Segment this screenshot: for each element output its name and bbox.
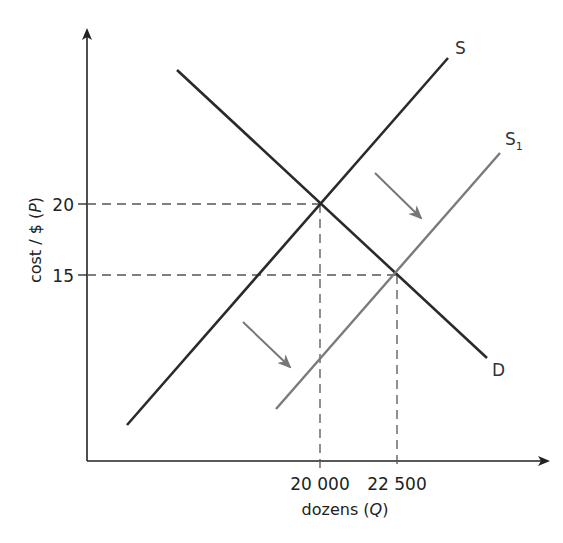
shift-arrows (243, 173, 421, 367)
label-s: S (455, 38, 466, 58)
label-s1-subscript: 1 (516, 140, 523, 153)
y-axis-title: cost / $ (P) (26, 197, 45, 283)
y-axis-title-close: ) (26, 197, 45, 203)
label-s1-main: S (505, 129, 516, 149)
label-s1: S1 (505, 129, 523, 153)
supply-curve-s1 (276, 153, 500, 409)
y-tick-label-20: 20 (52, 195, 74, 215)
x-axis-title: dozens (Q) (302, 500, 389, 519)
label-d: D (492, 360, 505, 380)
y-tick-label-15: 15 (52, 266, 74, 286)
shift-arrow-upper-icon (375, 173, 421, 218)
tick-marks (78, 204, 87, 275)
x-tick-label-22500: 22 500 (367, 474, 426, 494)
x-axis-title-text: dozens ( (302, 500, 370, 519)
supply-demand-chart: S S1 D 20 15 20 000 22 500 dozens (Q) co… (0, 0, 563, 543)
shift-arrow-lower-icon (243, 322, 290, 367)
y-axis-title-var: P (26, 203, 45, 213)
x-axis-title-close: ) (382, 500, 388, 519)
y-axis-title-text: cost / $ ( (26, 213, 45, 283)
guide-lines (87, 204, 397, 470)
axes (87, 30, 548, 461)
supply-curve-s (127, 58, 448, 425)
curves (127, 58, 500, 425)
x-tick-label-20000: 20 000 (290, 474, 349, 494)
x-axis-title-var: Q (370, 500, 383, 519)
